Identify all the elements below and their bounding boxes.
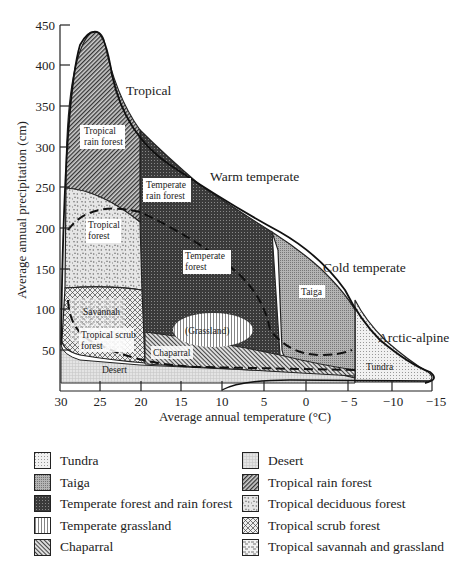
x-tick: 25 (94, 394, 107, 409)
chaparral-swatch-icon (34, 539, 51, 556)
x-tick: 20 (135, 394, 148, 409)
zone-label-cold-temperate: Cold temperate (323, 260, 406, 275)
y-tick: 200 (36, 221, 56, 236)
y-tick: 300 (36, 140, 56, 155)
taiga-swatch-icon (34, 474, 51, 491)
svg-text:Tropical: Tropical (84, 126, 116, 136)
grassland-swatch-icon (34, 517, 51, 534)
svg-text:Tundra: Tundra (366, 362, 394, 372)
zone-label-tropical: Tropical (126, 83, 172, 98)
desert-swatch-icon (242, 452, 259, 469)
svg-text:forest: forest (88, 231, 110, 241)
svg-text:Chaparral: Chaparral (153, 348, 191, 358)
y-tick: 400 (36, 58, 56, 73)
svg-text:Tropical scrub: Tropical scrub (81, 330, 136, 340)
svg-text:forest: forest (185, 262, 207, 272)
x-tick-labels: 30 25 20 15 10 5 0 − 5 −10 −15 (55, 394, 447, 409)
svg-text:Temperate: Temperate (146, 180, 186, 190)
tropical-deciduous-swatch-icon (242, 495, 259, 512)
legend-left: Tundra Taiga Temperate forest and rain f… (34, 450, 232, 558)
zone-label-warm-temperate: Warm temperate (210, 169, 299, 184)
x-tick: −10 (383, 394, 403, 409)
x-tick: 5 (261, 394, 268, 409)
y-tick: 250 (36, 180, 56, 195)
legend-item-taiga: Taiga (34, 472, 232, 494)
legend-item-tropical-rain-forest: Tropical rain forest (242, 472, 444, 494)
x-tick: −15 (426, 394, 446, 409)
y-tick: 100 (36, 302, 56, 317)
y-tick: 150 (36, 262, 56, 277)
x-tick: 30 (55, 394, 68, 409)
temperate-forest-swatch-icon (34, 495, 51, 512)
legend-item-desert: Desert (242, 450, 444, 472)
svg-text:rain forest: rain forest (84, 137, 123, 147)
tropical-scrub-swatch-icon (242, 517, 259, 534)
zone-label-arctic-alpine: Arctic-alpine (378, 330, 449, 345)
x-tick: − 5 (340, 394, 357, 409)
y-tick: 450 (36, 18, 56, 33)
svg-text:forest: forest (81, 341, 103, 351)
svg-text:Desert: Desert (102, 365, 127, 375)
legend-item-chaparral: Chaparral (34, 536, 232, 558)
tundra-swatch-icon (34, 452, 51, 469)
y-tick-labels: 450 400 350 300 250 200 150 100 50 (36, 18, 56, 358)
legend-right: Desert Tropical rain forest Tropical dec… (242, 450, 444, 558)
x-tick: 0 (303, 394, 310, 409)
legend-item-tropical-scrub-forest: Tropical scrub forest (242, 515, 444, 537)
x-axis-label: Average annual temperature (°C) (159, 409, 331, 424)
legend-item-temperate-forest: Temperate forest and rain forest (34, 493, 232, 515)
x-tick: 15 (175, 394, 188, 409)
svg-text:rain forest: rain forest (146, 191, 185, 201)
svg-text:Savannah: Savannah (83, 307, 120, 317)
y-tick: 350 (36, 99, 56, 114)
y-axis-label: Average annual precipitation (cm) (14, 121, 29, 299)
legend-item-temperate-grassland: Temperate grassland (34, 515, 232, 537)
x-tick: 10 (216, 394, 229, 409)
y-tick: 50 (42, 343, 55, 358)
svg-text:Tropical: Tropical (88, 220, 120, 230)
tropical-rain-forest-swatch-icon (242, 474, 259, 491)
svg-text:Taiga: Taiga (301, 287, 323, 297)
legend-item-tropical-deciduous-forest: Tropical deciduous forest (242, 493, 444, 515)
tropical-savannah-swatch-icon (242, 539, 259, 556)
svg-text:Temperate: Temperate (185, 251, 225, 261)
legend-item-tropical-savannah: Tropical savannah and grassland (242, 536, 444, 558)
svg-text:(Grassland): (Grassland) (185, 326, 229, 337)
legend-item-tundra: Tundra (34, 450, 232, 472)
